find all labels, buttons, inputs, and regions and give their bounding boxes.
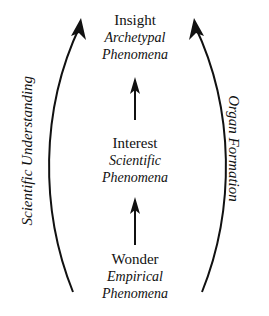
node-subtitle: Phenomena: [84, 46, 186, 63]
node-title: Interest: [84, 135, 186, 152]
left-arc-arrow: [49, 26, 80, 292]
node-subtitle: Archetypal: [84, 29, 186, 46]
node-subtitle: Scientific: [84, 152, 186, 169]
node-wonder: Wonder Empirical Phenomena: [84, 251, 186, 302]
node-title: Insight: [84, 12, 186, 29]
node-subtitle: Phenomena: [84, 285, 186, 302]
node-interest: Interest Scientific Phenomena: [84, 135, 186, 186]
node-title: Wonder: [84, 251, 186, 268]
node-insight: Insight Archetypal Phenomena: [84, 12, 186, 63]
side-label-organ-formation: Organ Formation: [225, 94, 242, 204]
node-subtitle: Phenomena: [84, 169, 186, 186]
side-label-scientific-understanding: Scientific Understanding: [19, 96, 36, 226]
diagram: Insight Archetypal Phenomena Interest Sc…: [0, 0, 269, 316]
node-subtitle: Empirical: [84, 268, 186, 285]
right-arc-arrowhead-icon: [189, 18, 204, 40]
right-arc-arrow: [195, 26, 226, 292]
